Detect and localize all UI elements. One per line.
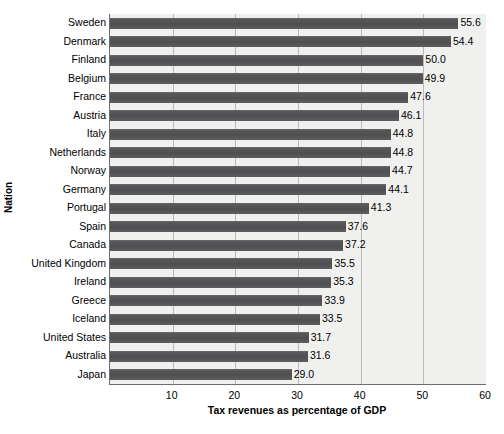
category-label: Finland: [0, 54, 106, 65]
value-label: 54.4: [453, 36, 473, 47]
x-tick-label: 60: [465, 389, 504, 402]
category-label: United Kingdom: [0, 258, 106, 269]
category-label: Sweden: [0, 17, 106, 28]
x-tick-label: 30: [277, 389, 317, 402]
category-label: Italy: [0, 128, 106, 139]
category-label: Denmark: [0, 36, 106, 47]
value-label: 35.3: [333, 276, 353, 287]
value-label: 44.1: [388, 184, 408, 195]
value-label: 29.0: [294, 369, 314, 380]
category-label: Iceland: [0, 313, 106, 324]
category-label: Australia: [0, 350, 106, 361]
value-label: 44.7: [392, 165, 412, 176]
x-axis-tick-labels: 102030405060: [0, 389, 504, 403]
category-label: Greece: [0, 295, 106, 306]
category-label: Ireland: [0, 276, 106, 287]
value-label: 33.5: [322, 313, 342, 324]
category-label: Austria: [0, 110, 106, 121]
x-tick-label: 20: [214, 389, 254, 402]
value-label: 37.2: [345, 239, 365, 250]
category-axis-labels: SwedenDenmarkFinlandBelgiumFranceAustria…: [0, 14, 106, 384]
bar-chart: Nation SwedenDenmarkFinlandBelgiumFrance…: [0, 0, 504, 434]
value-label: 50.0: [425, 54, 445, 65]
value-label: 31.6: [310, 350, 330, 361]
bar-value-labels: 55.654.450.049.947.646.144.844.844.744.1…: [109, 14, 504, 384]
category-label: Germany: [0, 184, 106, 195]
category-label: United States: [0, 332, 106, 343]
category-label: Japan: [0, 369, 106, 380]
x-tick-label: 10: [152, 389, 192, 402]
category-label: Netherlands: [0, 147, 106, 158]
value-label: 44.8: [393, 128, 413, 139]
category-label: Belgium: [0, 73, 106, 84]
category-label: Canada: [0, 239, 106, 250]
category-label: Norway: [0, 165, 106, 176]
value-label: 41.3: [371, 202, 391, 213]
value-label: 37.6: [348, 221, 368, 232]
value-label: 47.6: [410, 91, 430, 102]
value-label: 35.5: [334, 258, 354, 269]
value-label: 46.1: [401, 110, 421, 121]
value-label: 31.7: [311, 332, 331, 343]
x-axis-title: Tax revenues as percentage of GDP: [109, 404, 485, 417]
category-label: Spain: [0, 221, 106, 232]
value-label: 33.9: [324, 295, 344, 306]
category-label: France: [0, 91, 106, 102]
value-label: 55.6: [460, 17, 480, 28]
x-tick-label: 40: [340, 389, 380, 402]
value-label: 44.8: [393, 147, 413, 158]
x-tick-label: 50: [402, 389, 442, 402]
value-label: 49.9: [425, 73, 445, 84]
category-label: Portugal: [0, 202, 106, 213]
